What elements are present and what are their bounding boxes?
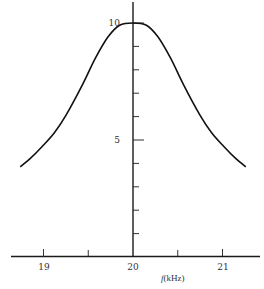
x-axis-label: f(kHz) bbox=[161, 273, 185, 283]
x-tick-label-21: 21 bbox=[217, 262, 228, 272]
y-tick-label-5: 5 bbox=[114, 135, 120, 145]
x-axis-unit: (kHz) bbox=[164, 273, 185, 283]
y-tick-label-10: 10 bbox=[109, 18, 121, 28]
x-tick-label-20: 20 bbox=[127, 262, 139, 272]
x-tick-label-19: 19 bbox=[38, 262, 50, 272]
y-axis-ticks bbox=[133, 23, 144, 234]
resonance-curve-chart: 10 5 19 20 21 f(kHz) bbox=[0, 0, 264, 289]
